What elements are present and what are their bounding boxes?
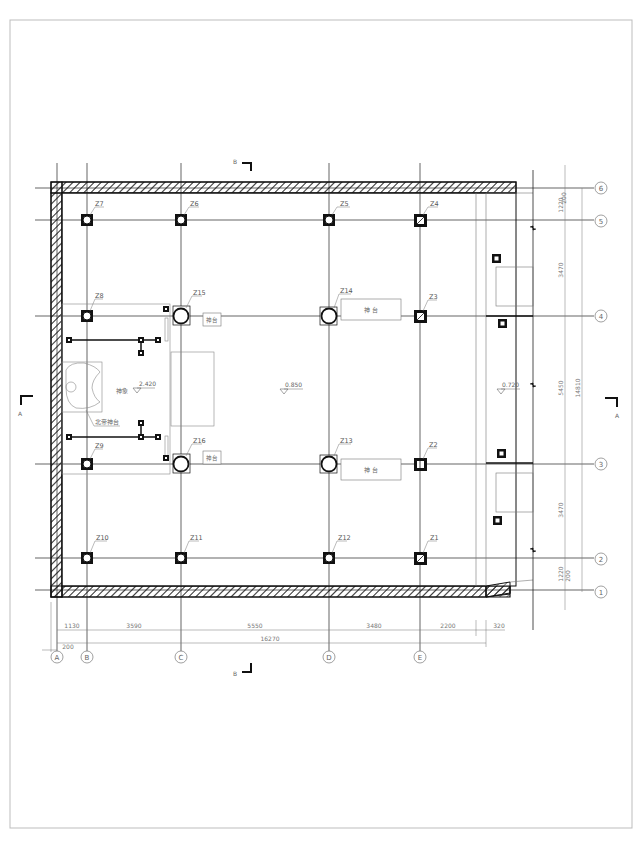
column-label-z9: Z9 — [95, 442, 104, 450]
col-bubble-e: E — [418, 654, 422, 662]
dim-porch-edge: 320 — [493, 622, 505, 629]
section-marker-top: B — [233, 158, 251, 171]
altar-lower-label: 神 台 — [364, 466, 378, 474]
vertical-dimension-texts: 200 1220 3470 5450 14810 3470 1220 200 — [557, 192, 581, 582]
column-label-z8: Z8 — [95, 292, 104, 300]
dim-bottom-offset: 200 — [564, 570, 571, 582]
column-label-z16: Z16 — [193, 437, 206, 445]
horizontal-dimensions — [42, 602, 505, 652]
col-bubble-c: C — [179, 654, 184, 662]
elevation-porch-value: 0.720 — [502, 381, 519, 388]
column-z7 — [81, 214, 93, 226]
north-altar-label: 北帝神台 — [95, 418, 119, 426]
column-z16 — [173, 454, 190, 473]
column-label-z6: Z6 — [190, 200, 199, 208]
column-z12 — [323, 552, 335, 564]
column-label-z7: Z7 — [95, 200, 104, 208]
column-z3 — [414, 310, 427, 323]
section-left-label: A — [18, 410, 23, 417]
statue-label: 神象 — [116, 387, 128, 395]
column-label-z14: Z14 — [340, 287, 353, 295]
section-marker-right: A — [605, 398, 620, 419]
dim-de: 3480 — [366, 622, 381, 629]
column-label-z15: Z15 — [193, 289, 206, 297]
column-z10 — [81, 552, 93, 564]
horizontal-dimension-texts: 1130 3590 5550 3480 2200 320 16270 200 — [62, 622, 505, 650]
floor-plan-svg: 神 台 神 台 神台 神台 神象 北帝神台 2.420 0.850 0.720 — [0, 0, 641, 843]
section-marker-bottom: B — [233, 663, 251, 677]
elevation-statue-value: 2.420 — [139, 380, 156, 387]
column-label-z1: Z1 — [430, 534, 439, 542]
dim-r6-r5: 1220 — [557, 197, 564, 212]
column-z5 — [323, 214, 335, 226]
dim-e-porch: 2200 — [440, 622, 455, 629]
top-wall-hatch — [62, 182, 516, 193]
col-bubble-d: D — [326, 654, 331, 662]
row-bubble-5: 5 — [599, 218, 603, 226]
left-wall-hatch — [51, 193, 62, 597]
column-label-z10: Z10 — [96, 534, 109, 542]
elevation-main-hall-value: 0.850 — [285, 381, 302, 388]
column-z2 — [414, 458, 427, 471]
col-bubble-a: A — [55, 654, 60, 662]
dim-r2-r1: 1220 — [557, 566, 564, 581]
dim-ab: 1130 — [64, 622, 79, 629]
row-bubble-6: 6 — [599, 185, 604, 193]
dim-total-depth: 14810 — [574, 378, 581, 397]
row-bubble-3: 3 — [599, 461, 603, 469]
column-label-z4: Z4 — [430, 200, 439, 208]
dim-r5-r4: 3470 — [557, 262, 564, 277]
column-z14 — [320, 307, 337, 325]
bottom-wall-hatch — [62, 586, 486, 597]
drawing-sheet: 神 台 神 台 神台 神台 神象 北帝神台 2.420 0.850 0.720 — [0, 0, 641, 843]
section-right-label: A — [615, 412, 620, 419]
dim-r4-r3: 5450 — [557, 380, 564, 395]
altar-small-upper-label: 神台 — [206, 316, 218, 324]
column-label-z11: Z11 — [190, 534, 203, 542]
column-label-z3: Z3 — [429, 293, 438, 301]
dim-bc: 3590 — [126, 622, 141, 629]
row-bubble-4: 4 — [599, 313, 604, 321]
section-top-label: B — [233, 158, 237, 165]
column-z11 — [175, 552, 187, 564]
column-z1 — [414, 552, 427, 565]
column-z9 — [81, 458, 93, 470]
column-z4 — [414, 214, 427, 227]
column-z6 — [175, 214, 187, 226]
dim-a-offset: 200 — [62, 643, 74, 650]
row-bubble-1: 1 — [599, 589, 603, 597]
column-z13 — [320, 455, 337, 473]
dim-r3-r2: 3470 — [557, 502, 564, 517]
row-axis-bubbles: 6 5 4 3 2 1 — [595, 182, 607, 598]
column-label-z13: Z13 — [340, 437, 353, 445]
dim-cd: 5550 — [247, 622, 262, 629]
column-label-z12: Z12 — [338, 534, 351, 542]
section-marker-left: A — [18, 396, 33, 417]
altar-small-lower-label: 神台 — [206, 454, 218, 462]
altar-upper-label: 神 台 — [364, 306, 378, 314]
col-bubble-b: B — [85, 654, 90, 662]
column-axis-bubbles: A B C D E — [51, 651, 426, 663]
column-z15 — [173, 306, 190, 325]
row-bubble-2: 2 — [599, 556, 603, 564]
column-label-z2: Z2 — [429, 441, 438, 449]
column-label-z5: Z5 — [340, 200, 349, 208]
section-bottom-label: B — [233, 670, 237, 677]
column-z8 — [81, 310, 93, 322]
dim-total-width: 16270 — [260, 635, 279, 642]
